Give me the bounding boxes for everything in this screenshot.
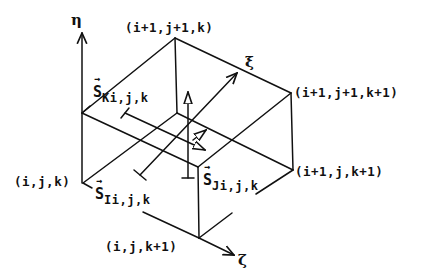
edge-right-vertical [291, 93, 293, 170]
si-symbol: S [95, 185, 104, 203]
face-vector-sj: SJi,j,k [203, 172, 258, 188]
vertex-label-i-j-k1: (i,j,k+1) [105, 241, 177, 254]
sk-tail-tick [121, 108, 129, 118]
sj-symbol: S [203, 171, 212, 189]
edge-back-vertical [175, 38, 177, 113]
cell-diagram [0, 0, 432, 279]
sk-vertex-tick [82, 106, 90, 113]
edge-inner-bottom-left [83, 113, 177, 183]
vertex-label-i-j-k: (i,j,k) [14, 176, 70, 189]
face-vector-sk: SKi,j,k [93, 84, 148, 100]
face-vector-si: SIi,j,k [95, 186, 150, 202]
edge-inner-bottom-right [177, 113, 293, 170]
edge-right-bottom [256, 170, 293, 194]
edge-left-bottom [83, 183, 92, 188]
edge-front-vertical [198, 167, 199, 238]
si-subscript: Ii,j,k [104, 193, 150, 207]
edge-front-bottom-right [199, 213, 232, 238]
sj-subscript: Ji,j,k [212, 179, 258, 193]
vertex-label-i1-j-k1: (i+1,j,k+1) [295, 166, 383, 179]
vertex-label-i1-j1-k: (i+1,j+1,k) [125, 22, 213, 35]
eta-label: η [71, 13, 82, 28]
xi-label: ξ [245, 55, 254, 70]
sk-subscript: Ki,j,k [102, 91, 148, 105]
si-normal-arrow [193, 130, 206, 140]
vertex-label-i1-j1-k1: (i+1,j+1,k+1) [294, 87, 398, 100]
zeta-label: ζ [238, 253, 247, 268]
edge-top-right [175, 38, 291, 93]
sk-symbol: S [93, 83, 102, 101]
zeta-axis [199, 238, 234, 255]
edge-front-bottom-left [143, 212, 199, 238]
